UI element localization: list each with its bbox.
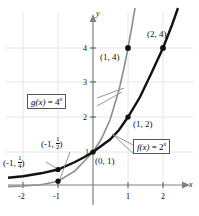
xtick-label-2: 2 — [161, 192, 165, 201]
point-label-1-2: (1, 2) — [133, 120, 153, 129]
ytick-label-2: 2 — [83, 113, 87, 122]
figure-exponential-graphs: x y -2 -1 1 2 4 3 2 1 (1, 4) (2, 4) (1, … — [0, 0, 199, 216]
y-axis-label: y — [96, 9, 100, 18]
callout-g-equals: = 4 — [48, 97, 60, 107]
x-axis-label: x — [189, 180, 193, 189]
point-label-neg1-quarter: (-1, 14) — [3, 155, 25, 171]
callout-g-name: g(x) — [31, 97, 46, 107]
point-label-neg1-quarter-open: (-1, — [3, 158, 18, 168]
callout-g-function: g(x) = 4x — [27, 94, 66, 109]
point-label-0-1: (0, 1) — [95, 157, 115, 166]
point-label-neg1-half: (-1, 12) — [41, 136, 63, 152]
callout-f-name: f(x) — [137, 142, 150, 152]
point-g-1-4 — [125, 45, 131, 51]
point-label-neg1-quarter-close: ) — [22, 158, 25, 168]
point-f-2-4 — [160, 45, 166, 51]
callout-f-equals: = 2 — [152, 142, 164, 152]
point-label-neg1-half-open: (-1, — [41, 139, 56, 149]
point-0-1 — [90, 149, 95, 154]
callout-g-exponent: x — [60, 96, 63, 102]
callout-f-exponent: x — [164, 141, 167, 147]
leader-neg1-quarter — [46, 162, 56, 168]
point-g-neg1-quarter — [55, 179, 60, 184]
xtick-label-1: 1 — [126, 192, 130, 201]
ytick-label-1: 1 — [85, 148, 89, 157]
point-f-1-2 — [125, 114, 130, 119]
leader-g-lower — [97, 92, 122, 106]
ytick-label-4: 4 — [83, 44, 87, 53]
xtick-label-neg2: -2 — [18, 192, 25, 201]
xtick-label-neg1: -1 — [53, 192, 60, 201]
ytick-label-3: 3 — [83, 78, 87, 87]
point-label-neg1-half-close: ) — [60, 139, 63, 149]
point-label-1-4: (1, 4) — [100, 53, 120, 62]
point-label-2-4: (2, 4) — [147, 30, 167, 39]
callout-f-function: f(x) = 2x — [133, 139, 170, 154]
